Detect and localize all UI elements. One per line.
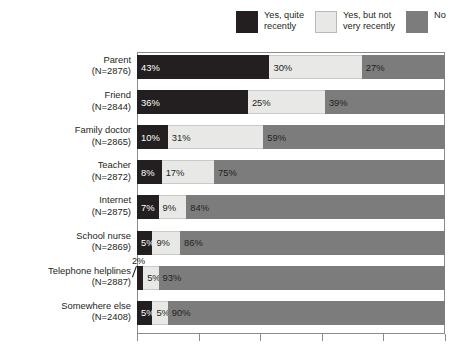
bar-value-label: 90% <box>168 307 191 318</box>
bar-segment-dark: 7% <box>137 195 159 219</box>
bar-value-label: 25% <box>248 97 271 108</box>
category-name: Family doctor <box>75 124 131 135</box>
bar-value-label: 75% <box>214 167 237 178</box>
category-name: Friend <box>104 89 131 100</box>
bar-segment-mid: 75% <box>214 160 445 184</box>
bar-segment-dark: 10% <box>137 125 168 149</box>
bar-segment-dark: 5% <box>137 301 152 325</box>
category-name: School nurse <box>76 230 131 241</box>
bar-value-label: 9% <box>159 202 177 213</box>
category-count: (N=2844) <box>0 101 131 112</box>
category-count: (N=2872) <box>0 171 131 182</box>
category-name: Internet <box>99 194 131 205</box>
category-name: Somewhere else <box>61 300 131 311</box>
bar-row: 7%9%84% <box>137 195 445 219</box>
category-count: (N=2875) <box>0 206 131 217</box>
x-tick <box>445 334 446 341</box>
legend-item-no: No <box>406 10 446 33</box>
bar-segment-dark: 8% <box>137 160 162 184</box>
bar-segment-mid: 84% <box>186 195 445 219</box>
category-label: Family doctor(N=2865) <box>0 124 131 147</box>
bar-segment-mid: 39% <box>325 90 445 114</box>
bar-row: 5%9%86% <box>137 231 445 255</box>
bar-value-label: 10% <box>137 132 160 143</box>
category-name: Telephone helplines <box>48 265 131 276</box>
legend-label-yes-but-not-very-recently: Yes, but not very recently <box>343 10 395 31</box>
bar-segment-light: 30% <box>269 55 361 79</box>
bar-segment-light: 9% <box>159 195 187 219</box>
legend-swatch-yes-quite-recently <box>236 11 258 33</box>
bar-value-label: 31% <box>168 132 191 143</box>
bar-row: 43%30%27% <box>137 55 445 79</box>
legend-label-no: No <box>434 10 446 21</box>
legend-label-yes-quite-recently: Yes, quite recently <box>264 10 304 31</box>
legend-item-yes-but-not-very-recently: Yes, but not very recently <box>315 10 395 33</box>
category-count: (N=2865) <box>0 136 131 147</box>
x-tick <box>137 334 138 341</box>
bar-value-label: 36% <box>137 97 160 108</box>
category-name: Parent <box>103 54 131 65</box>
category-count: (N=2869) <box>0 241 131 252</box>
category-label: Somewhere else(N=2408) <box>0 300 131 323</box>
bar-row: 5%5%90% <box>137 301 445 325</box>
bar-segment-dark: 5% <box>137 231 152 255</box>
bar-value-label: 93% <box>159 272 182 283</box>
bar-value-label: 86% <box>180 237 203 248</box>
bar-segment-light: 5% <box>152 301 167 325</box>
legend-swatch-yes-but-not-very-recently <box>315 11 337 33</box>
legend-swatch-no <box>406 11 428 33</box>
category-label: School nurse(N=2869) <box>0 230 131 253</box>
bar-segment-mid: 93% <box>159 266 445 290</box>
category-label: Internet(N=2875) <box>0 194 131 217</box>
bar-row: 2%5%93% <box>137 266 445 290</box>
category-count: (N=2887) <box>0 276 131 287</box>
bar-value-label: 9% <box>152 237 170 248</box>
x-axis-ticks <box>137 334 446 341</box>
bar-value-label: 59% <box>263 132 286 143</box>
bar-segment-light: 9% <box>152 231 180 255</box>
legend-item-yes-quite-recently: Yes, quite recently <box>236 10 304 33</box>
bar-row: 10%31%59% <box>137 125 445 149</box>
bar-segment-mid: 90% <box>168 301 445 325</box>
category-label: Parent(N=2876) <box>0 54 131 77</box>
category-label: Telephone helplines(N=2887) <box>0 265 131 288</box>
bar-value-label: 43% <box>137 62 160 73</box>
category-count: (N=2876) <box>0 65 131 76</box>
bar-segment-mid: 27% <box>362 55 445 79</box>
bar-segment-light: 17% <box>162 160 214 184</box>
x-tick <box>199 334 200 341</box>
bar-value-label: 8% <box>137 167 155 178</box>
x-tick <box>260 334 261 341</box>
bar-segment-mid: 59% <box>263 125 445 149</box>
bar-value-label: 27% <box>362 62 385 73</box>
bar-segment-dark: 43% <box>137 55 269 79</box>
callout-label-2-percent: 2% <box>132 256 145 266</box>
bar-segment-dark: 36% <box>137 90 248 114</box>
bar-value-label: 39% <box>325 97 348 108</box>
bar-value-label: 30% <box>269 62 292 73</box>
chart-legend: Yes, quite recently Yes, but not very re… <box>236 10 446 33</box>
bar-segment-light: 25% <box>248 90 325 114</box>
bar-row: 36%25%39% <box>137 90 445 114</box>
chart-plot-area: 43%30%27%36%25%39%10%31%59%8%17%75%7%9%8… <box>137 52 445 334</box>
bar-segment-light: 31% <box>168 125 263 149</box>
category-count: (N=2408) <box>0 311 131 322</box>
category-label: Friend(N=2844) <box>0 89 131 112</box>
bar-segment-light: 5% <box>143 266 158 290</box>
category-label: Teacher(N=2872) <box>0 159 131 182</box>
bar-value-label: 7% <box>137 202 155 213</box>
x-tick <box>322 334 323 341</box>
bar-segment-mid: 86% <box>180 231 445 255</box>
x-tick <box>383 334 384 341</box>
category-name: Teacher <box>98 159 131 170</box>
bar-value-label: 84% <box>186 202 209 213</box>
bar-value-label: 17% <box>162 167 185 178</box>
bar-row: 8%17%75% <box>137 160 445 184</box>
